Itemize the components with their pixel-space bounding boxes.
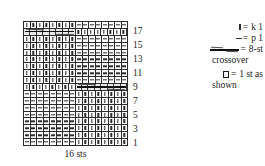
chart-cell-knit — [122, 125, 128, 131]
chart-cell-knit — [121, 29, 127, 35]
chart-row — [24, 77, 127, 84]
row-number-11: 11 — [133, 68, 142, 78]
chart-cell-knit — [122, 132, 128, 138]
purl-stitch-icon — [212, 33, 242, 44]
legend-label-purl: p 1 — [251, 33, 263, 44]
legend-item-knit: = k 1 — [168, 22, 263, 33]
chart-row — [24, 43, 127, 50]
chart-row — [24, 36, 127, 43]
legend-equals-crossover: = — [239, 44, 248, 55]
chart-legend: = k 1 = p 1 = 8-st crossover = 1 st as s… — [168, 22, 263, 91]
chart-row — [24, 112, 127, 119]
chart-cell-knit — [122, 139, 128, 145]
legend-label-crossover-cont: crossover — [212, 55, 248, 66]
row-number-9: 9 — [133, 82, 138, 92]
chart-row — [24, 132, 127, 139]
chart-cell-purl — [122, 43, 128, 49]
row-number-column: 1715131197531 — [133, 21, 157, 146]
chart-cell-purl — [122, 77, 128, 83]
chart-row — [24, 98, 127, 105]
legend-item-crossover-cont: crossover — [168, 55, 263, 66]
chart-row — [24, 91, 127, 98]
chart-row — [24, 105, 127, 112]
chart-row — [24, 50, 127, 57]
chart-row — [24, 56, 127, 63]
chart-row — [24, 29, 127, 36]
row-number-15: 15 — [133, 40, 143, 50]
row-number-17: 17 — [133, 26, 143, 36]
legend-equals-box: = — [230, 69, 239, 80]
chart-cell-knit — [122, 105, 128, 111]
legend-item-crossover: = 8-st — [168, 44, 263, 55]
row-number-3: 3 — [133, 124, 138, 134]
stitch-count-caption: 16 sts — [23, 149, 128, 159]
chart-cell-knit — [122, 98, 128, 104]
legend-item-box-cont: shown — [168, 80, 263, 91]
chart-cell-knit — [122, 91, 128, 97]
chart-cell-purl — [122, 36, 128, 42]
chart-cell-purl — [122, 70, 128, 76]
legend-equals-knit: = — [242, 22, 251, 33]
chart-grid — [23, 21, 128, 146]
knitting-chart — [23, 21, 128, 146]
row-number-5: 5 — [133, 110, 138, 120]
chart-row — [24, 22, 127, 29]
box-icon — [200, 69, 230, 80]
row-number-13: 13 — [133, 54, 143, 64]
row-number-7: 7 — [133, 96, 138, 106]
chart-cell-purl — [122, 22, 128, 28]
row-number-1: 1 — [133, 138, 138, 148]
legend-label-box-cont: shown — [212, 80, 237, 91]
chart-row — [24, 118, 127, 125]
chart-cell-knit — [122, 118, 128, 124]
chart-cell-purl — [122, 56, 128, 62]
chart-cell-knit — [122, 112, 128, 118]
chart-cell-cross — [121, 84, 127, 90]
chart-row — [24, 84, 127, 91]
chart-cell-purl — [122, 63, 128, 69]
legend-label-knit: k 1 — [251, 22, 263, 33]
legend-label-box: 1 st as — [239, 69, 263, 80]
chart-cell-purl — [122, 50, 128, 56]
legend-item-box: = 1 st as — [168, 69, 263, 80]
chart-row — [24, 139, 127, 145]
chart-row — [24, 125, 127, 132]
legend-equals-purl: = — [242, 33, 251, 44]
knit-stitch-icon — [212, 22, 242, 33]
chart-row — [24, 63, 127, 70]
crossover-icon — [209, 44, 239, 55]
legend-label-crossover: 8-st — [249, 44, 263, 55]
chart-row — [24, 70, 127, 77]
legend-item-purl: = p 1 — [168, 33, 263, 44]
